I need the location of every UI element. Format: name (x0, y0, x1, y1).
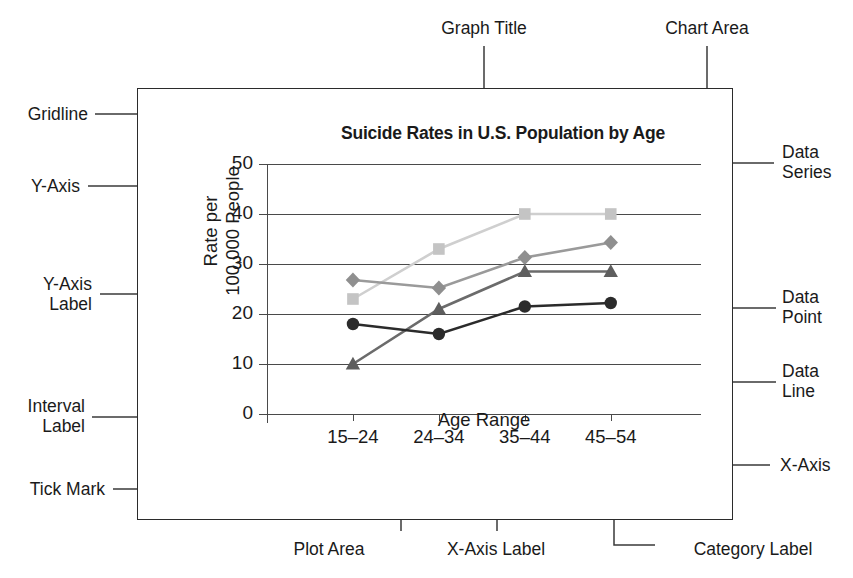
anno-category-label: Category Label (663, 539, 843, 559)
anno-x-axis-label: X-Axis Label (421, 539, 571, 559)
diagram-stage: Gridline Y-Axis Y-AxisLabel IntervalLabe… (0, 0, 853, 578)
data-point (519, 208, 531, 220)
y-tick-mark (259, 314, 267, 315)
data-point (605, 208, 617, 220)
anno-chart-area: Chart Area (637, 18, 777, 38)
data-point (347, 293, 359, 305)
series-circle-black (347, 297, 617, 340)
data-point (604, 235, 618, 250)
y-tick-mark (259, 414, 267, 415)
y-interval-label: 0 (211, 402, 253, 424)
anno-y-axis: Y-Axis (0, 176, 80, 196)
anno-graph-title: Graph Title (414, 18, 554, 38)
y-interval-label: 30 (211, 252, 253, 274)
data-line (353, 303, 611, 334)
y-tick-mark (259, 164, 267, 165)
data-point (347, 318, 359, 330)
y-tick-mark (259, 214, 267, 215)
data-line (353, 272, 611, 365)
anno-tick-mark: Tick Mark (0, 479, 105, 499)
anno-interval-label: IntervalLabel (0, 396, 85, 436)
data-point (519, 300, 531, 312)
x-axis-label: Age Range (267, 409, 701, 431)
data-line (353, 214, 611, 299)
data-point (432, 280, 446, 295)
data-point (346, 357, 360, 370)
anno-plot-area: Plot Area (259, 539, 399, 559)
plot-area: 01020304050 15–2424–3435–4445–54 (267, 164, 701, 414)
y-tick-mark (259, 264, 267, 265)
series-diamond-gray (346, 235, 618, 296)
y-interval-label: 40 (211, 202, 253, 224)
data-point (433, 328, 445, 340)
y-interval-label: 20 (211, 302, 253, 324)
anno-x-axis: X-Axis (780, 455, 853, 475)
y-tick-mark (259, 364, 267, 365)
data-point (346, 272, 360, 287)
data-point (605, 297, 617, 309)
anno-y-axis-label: Y-AxisLabel (0, 274, 92, 314)
anno-gridline: Gridline (0, 104, 88, 124)
chart-area: Suicide Rates in U.S. Population by Age … (137, 88, 733, 520)
anno-data-line: DataLine (782, 361, 852, 401)
data-line (353, 243, 611, 289)
series-svg (267, 164, 701, 416)
anno-data-point: DataPoint (782, 287, 852, 327)
y-interval-label: 10 (211, 352, 253, 374)
data-point (433, 243, 445, 255)
graph-title: Suicide Rates in U.S. Population by Age (288, 123, 718, 144)
data-point (518, 250, 532, 265)
anno-data-series: DataSeries (782, 142, 852, 182)
y-interval-label: 50 (211, 152, 253, 174)
